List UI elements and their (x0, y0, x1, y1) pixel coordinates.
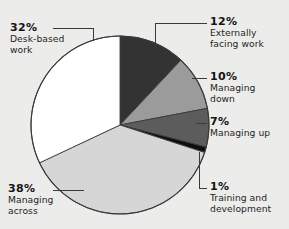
pie-label-managing-down: 10% Managing down (210, 71, 255, 104)
pie-label-managing-across: 38% Managing across (8, 183, 53, 216)
pie-label-training-and-development: 1% Training and development (210, 181, 271, 214)
pie-label-desk-based-work: 32% Desk-based work (10, 22, 64, 55)
pie-label-text-line1: Managing up (210, 128, 270, 138)
pie-label-managing-up: 7% Managing up (210, 116, 270, 139)
pie-label-text-line2: work (10, 45, 64, 55)
leader-line-externally-facing (155, 23, 207, 48)
pie-label-text-line2: down (210, 94, 255, 104)
pie-chart-figure: 32% Desk-based work 38% Managing across … (0, 0, 289, 229)
pie-label-externally-facing-work: 12% Externally facing work (210, 16, 264, 49)
pie-label-text-line2: across (8, 206, 53, 216)
pie-slice-group (31, 36, 209, 214)
pie-label-text-line2: facing work (210, 39, 264, 49)
pie-label-text-line2: development (210, 204, 271, 214)
